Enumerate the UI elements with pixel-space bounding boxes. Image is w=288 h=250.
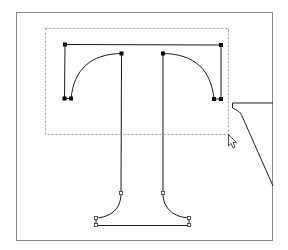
node-right-stem-top[interactable]: [161, 52, 165, 56]
edit-area-frame: [17, 13, 273, 241]
node-right-serif-inner[interactable]: [212, 97, 216, 101]
node-right-stem-bottom[interactable]: [162, 192, 165, 195]
node-top-left[interactable]: [63, 43, 67, 47]
node-left-stem-bottom[interactable]: [120, 192, 123, 195]
node-bottom-right-upper[interactable]: [188, 217, 191, 220]
node-top-right[interactable]: [219, 43, 223, 47]
node-bottom-left-lower[interactable]: [95, 224, 98, 227]
glyph-editor-canvas[interactable]: [0, 0, 288, 250]
node-left-stem-top[interactable]: [120, 52, 124, 56]
node-left-serif-outer[interactable]: [63, 97, 67, 101]
node-left-serif-inner[interactable]: [69, 97, 73, 101]
node-right-serif-outer[interactable]: [219, 97, 223, 101]
node-bottom-left-upper[interactable]: [95, 217, 98, 220]
node-bottom-right-lower[interactable]: [188, 224, 191, 227]
